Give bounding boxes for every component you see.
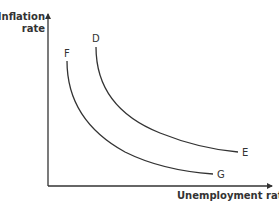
label-e: E [242, 147, 248, 158]
label-f: F [64, 48, 70, 59]
x-axis-label: Unemployment rate [177, 190, 279, 202]
label-d: D [92, 33, 100, 44]
y-axis-label-line1: Inflation [0, 11, 45, 23]
phillips-curve-diagram: Inflation rate Unemployment rate D F E G [0, 0, 279, 203]
curve-fg [67, 61, 213, 174]
y-axis-label-line2: rate [0, 23, 45, 35]
label-g: G [217, 169, 225, 180]
curve-de [96, 47, 238, 152]
y-axis-label: Inflation rate [0, 11, 45, 35]
